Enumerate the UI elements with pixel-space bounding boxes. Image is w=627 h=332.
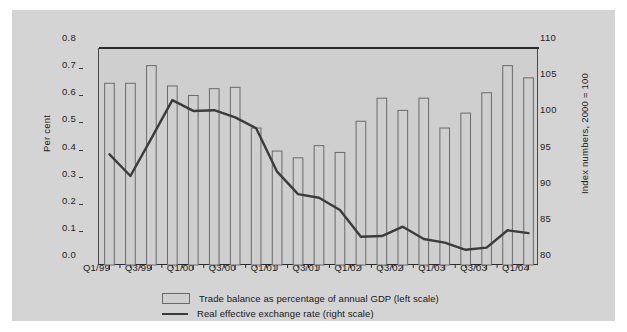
right-axis-tick-label: 105 [540,68,557,79]
left-axis-tick-mark [79,122,83,123]
right-axis-tick-label: 100 [540,104,557,115]
left-axis-label: Per cent [41,94,52,174]
bar [230,87,240,265]
left-axis-tick-label: 0.3 [40,168,76,179]
legend-item-line: Real effective exchange rate (right scal… [162,306,502,321]
bar [105,83,115,265]
left-axis-tick-label: 0.7 [40,59,76,70]
right-axis-tick-label: 80 [540,249,551,260]
left-axis-tick-mark [79,150,83,151]
bar [461,113,471,265]
bar [356,121,366,265]
legend-item-bar: Trade balance as percentage of annual GD… [162,291,502,306]
chart-canvas [99,48,539,265]
bar [251,128,261,265]
left-axis-tick-mark [79,95,83,96]
left-axis-tick-label: 0.6 [40,86,76,97]
bar [272,151,282,265]
bar [147,66,157,265]
legend-label-line: Real effective exchange rate (right scal… [197,308,374,319]
left-axis-tick-mark [79,204,83,205]
left-axis-tick-label: 0.1 [40,222,76,233]
right-axis-tick-label: 95 [540,141,551,152]
left-axis-tick-label: 0.8 [40,32,76,43]
chart-figure: Per cent Index numbers, 2000 = 100 0.80.… [0,0,627,332]
chart-legend: Trade balance as percentage of annual GD… [162,291,502,321]
bar [377,98,387,265]
bar-swatch-icon [162,293,190,304]
left-axis-tick-mark [79,177,83,178]
bar [168,86,178,265]
plot-area [98,48,538,265]
legend-label-bar: Trade balance as percentage of annual GD… [199,293,439,304]
left-axis-tick-label: 0.4 [40,141,76,152]
bar [293,158,303,265]
bar [398,110,408,265]
left-axis-tick-mark [79,68,83,69]
left-axis-tick-label: 0.5 [40,113,76,124]
bar [188,95,198,265]
right-axis-tick-label: 110 [540,32,556,43]
right-axis-tick-label: 85 [540,213,551,224]
bar [482,93,492,265]
left-axis-tick-label: 0.2 [40,195,76,206]
bar [503,66,513,265]
right-axis-tick-label: 90 [540,177,551,188]
line-swatch-icon [162,313,188,315]
chart-panel: Per cent Index numbers, 2000 = 100 0.80.… [12,10,615,321]
right-axis-label: Index numbers, 2000 = 100 [579,59,590,209]
bar-series [105,66,534,265]
bar [209,89,219,265]
bar [314,146,324,265]
left-axis-tick-label: 0.0 [40,249,76,260]
bar [524,78,534,265]
left-axis-tick-mark [79,231,83,232]
